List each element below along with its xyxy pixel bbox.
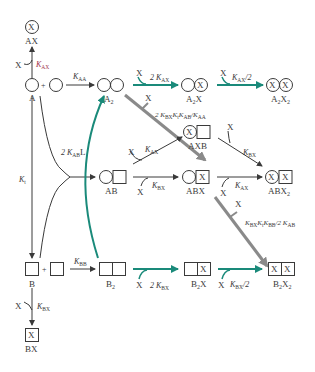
x-in-A2X2-2: X <box>282 81 289 90</box>
rate-K_AX-AXB: KAX <box>145 145 158 157</box>
ligand-X-B2X: X <box>136 281 143 290</box>
x-in-ABX: X <box>199 173 206 182</box>
rate-K_BX-BX: KBX <box>37 302 50 314</box>
rate-KBX-Kt-KBB-over-2KAB: KBXKtKBB/2 KAB <box>245 219 295 230</box>
x-in-B2X: X <box>200 265 207 274</box>
x-in-B2X2-2: X <box>284 265 291 274</box>
x-in-A2X: X <box>197 81 204 90</box>
label-A2X2: A2X2 <box>271 95 290 107</box>
rate-K_AX-half: KAX/2 <box>232 73 252 85</box>
label-AX: AX <box>25 37 38 46</box>
ligand-X-ABX2a: X <box>227 123 234 132</box>
label-B2: B2 <box>106 280 115 292</box>
ligand-X-gray2: X <box>235 200 242 209</box>
x-in-B2X2-1: X <box>271 265 278 274</box>
rate-K_BX-ABX2: KBX <box>243 148 256 160</box>
rate-2K_AB: 2 KAB <box>61 148 80 160</box>
ligand-X-ABX2b: X <box>220 189 227 198</box>
ligand-X-AXB: X <box>128 148 135 157</box>
path-A-to-AB <box>40 96 70 177</box>
x-in-A2X2-1: X <box>269 81 276 90</box>
x-in-AX: X <box>28 23 35 32</box>
ligand-X-AX: X <box>15 61 22 70</box>
path-B-to-AB <box>40 177 70 258</box>
ligand-X-gray1: X <box>145 94 152 103</box>
ligand-X-BX: X <box>15 302 22 311</box>
rate-K_BX-ABX: KBX <box>152 181 165 193</box>
x-in-ABX2-1: X <box>268 173 275 182</box>
species-AB <box>100 171 127 184</box>
ligand-L: L <box>80 148 86 157</box>
x-in-BX: X <box>28 331 35 340</box>
rate-2K_AX: 2 KAX <box>150 73 169 85</box>
x-in-ABX2-2: X <box>282 173 289 182</box>
label-B2X2: B2X2 <box>273 280 292 292</box>
label-B2X: B2X <box>191 280 207 292</box>
label-ABX2: ABX2 <box>268 187 290 199</box>
ligand-X-B2X2: X <box>218 281 225 290</box>
label-BX: BX <box>25 345 38 354</box>
rate-K_BB: KBB <box>74 257 87 269</box>
plus-B: + <box>42 265 47 274</box>
label-AXB: AXB <box>188 142 207 151</box>
rate-K_AX-AX: KAX <box>36 60 49 72</box>
ligand-X-A2X: X <box>136 69 143 78</box>
rate-K_t: Kt <box>19 175 26 187</box>
label-AB: AB <box>105 187 118 196</box>
label-A2X: A2X <box>186 95 202 107</box>
label-B: B <box>29 280 35 289</box>
x-in-AXB: X <box>186 128 193 137</box>
plus-A: + <box>41 81 46 90</box>
ligand-X-A2X2: X <box>220 69 227 78</box>
rate-K_AA: KAA <box>73 72 86 84</box>
species-B2 <box>100 263 126 276</box>
label-A2: A2 <box>104 95 114 107</box>
rate-2KBX-Kt-KAB-over-KAA: 2 KBXKtKAB/KAA <box>155 111 206 122</box>
species-A2 <box>98 79 124 92</box>
rate-K_AX-ABX2: KAX <box>235 181 248 193</box>
label-ABX: ABX <box>186 187 205 196</box>
rate-2K_BX: 2 KBX <box>150 281 169 293</box>
label-A: A <box>29 94 36 103</box>
ligand-X-ABX: X <box>137 188 144 197</box>
rate-K_BX-half: KBX/2 <box>230 280 249 292</box>
